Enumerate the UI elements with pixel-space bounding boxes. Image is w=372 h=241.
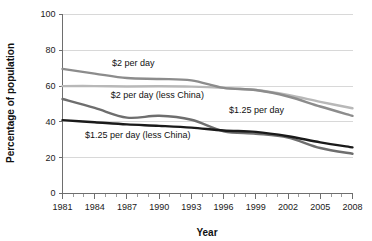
x-axis-title: Year [196, 227, 217, 238]
x-axis-tick-label: 1990 [149, 202, 169, 212]
series-label: $2 per day [112, 58, 155, 68]
y-axis-tick-label: 100 [40, 9, 55, 19]
series-line [63, 99, 353, 154]
y-axis-tick-label: 60 [45, 81, 55, 91]
x-axis-ticks [63, 194, 353, 199]
series-line [63, 86, 353, 108]
x-axis-tick-label: 1981 [52, 202, 72, 212]
x-axis-tick-label: 2002 [278, 202, 298, 212]
x-axis-tick-label: 1996 [214, 202, 234, 212]
y-axis-tick-labels: 020406080100 [40, 9, 55, 198]
y-axis-tick-label: 40 [45, 117, 55, 127]
x-axis-tick-label: 1984 [85, 202, 105, 212]
x-axis-tick-label: 1987 [117, 202, 137, 212]
y-axis-title: Percentage of population [5, 43, 16, 163]
series-line [63, 69, 353, 116]
x-axis-tick-labels: 1981198419871990199319961999200220052008 [52, 202, 362, 212]
series-label: $1.25 per day [229, 105, 285, 115]
y-axis-tick-label: 0 [50, 188, 55, 198]
y-axis-tick-label: 80 [45, 45, 55, 55]
y-axis-ticks [59, 15, 63, 194]
x-axis-tick-label: 1999 [246, 202, 266, 212]
x-axis-tick-label: 2008 [342, 202, 362, 212]
data-series-group [63, 69, 353, 154]
x-axis-tick-label: 2005 [310, 202, 330, 212]
x-axis-tick-label: 1993 [181, 202, 201, 212]
percentage-of-population-line-chart: 020406080100 198119841987199019931996199… [0, 0, 372, 241]
series-label: $2 per day (less China) [111, 90, 204, 100]
y-axis-tick-label: 20 [45, 153, 55, 163]
chart-container: 020406080100 198119841987199019931996199… [0, 0, 372, 241]
series-label: $1.25 per day (less China) [85, 130, 191, 140]
